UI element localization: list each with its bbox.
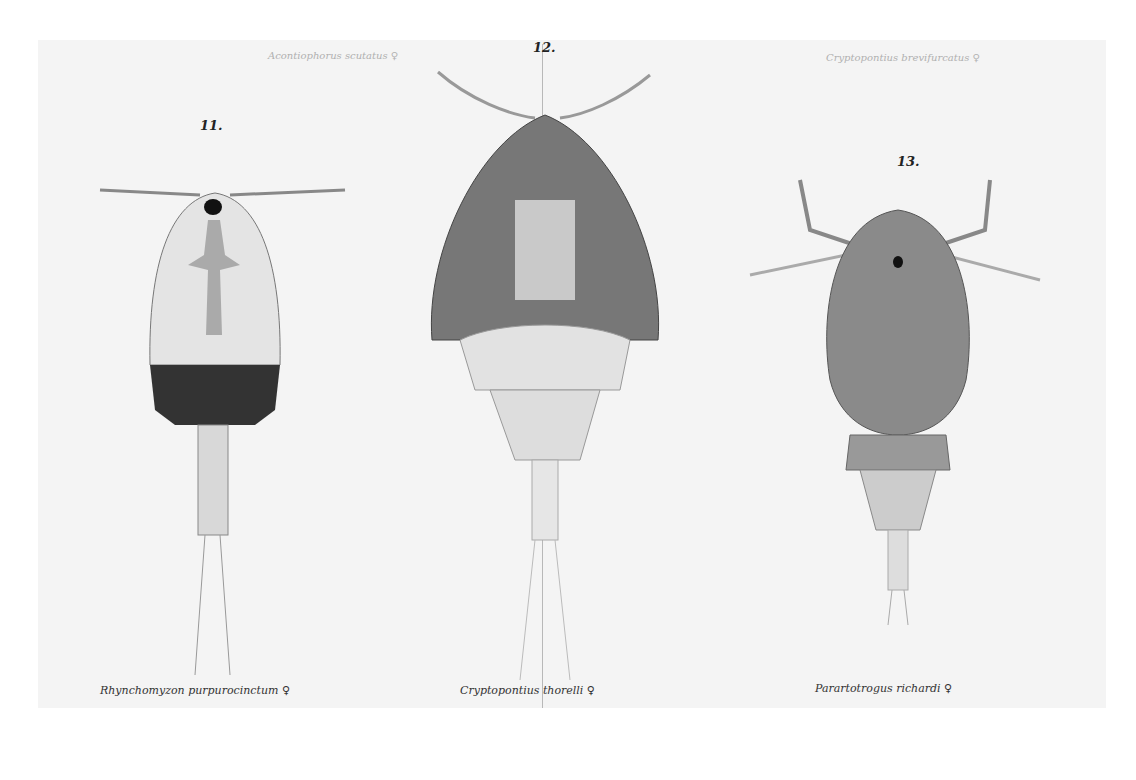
faint-label-acontiophorus: Acontiophorus scutatus ♀ bbox=[268, 50, 398, 61]
caption-figure-13: Parartotrogus richardi ♀ bbox=[815, 682, 952, 695]
figure-number-13: 13. bbox=[897, 154, 920, 169]
copepod-figure-11 bbox=[80, 175, 360, 675]
figure-number-12: 12. bbox=[533, 40, 556, 55]
figure-number-11: 11. bbox=[200, 118, 223, 133]
faint-label-brevifurcatus: Cryptopontius brevifurcatus ♀ bbox=[826, 52, 980, 63]
caption-figure-12: Cryptopontius thorelli ♀ bbox=[460, 684, 595, 697]
copepod-figure-13 bbox=[740, 170, 1060, 630]
caption-figure-11: Rhynchomyzon purpurocinctum ♀ bbox=[100, 684, 290, 697]
copepod-figure-12 bbox=[420, 70, 670, 680]
